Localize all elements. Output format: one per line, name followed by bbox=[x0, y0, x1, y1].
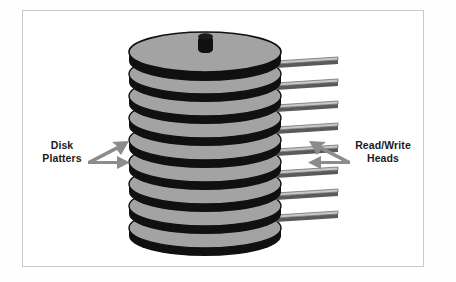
read-write-heads-label-line1: Read/Write bbox=[352, 139, 414, 152]
read-write-heads-label-line2: Heads bbox=[352, 152, 414, 165]
read-write-heads-label: Read/Write Heads bbox=[352, 139, 414, 164]
disk-platters-label: Disk Platters bbox=[36, 139, 88, 164]
figure-root: Disk Platters Read/Write Heads bbox=[0, 0, 456, 282]
top-spindle bbox=[198, 33, 213, 53]
disk-platters-label-line1: Disk bbox=[36, 139, 88, 152]
disk-platters-label-line2: Platters bbox=[36, 152, 88, 165]
